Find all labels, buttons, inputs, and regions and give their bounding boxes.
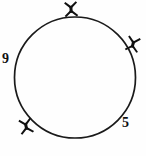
x-cross-mark-right [125, 35, 142, 53]
figure-canvas: 9 5 [0, 0, 146, 156]
x-cross-mark-top [64, 1, 79, 17]
circle-diagram-svg [0, 0, 146, 156]
circle-label-left: 9 [2, 52, 9, 66]
circle-shape [15, 17, 136, 138]
circle-label-bottom-right: 5 [122, 116, 129, 130]
